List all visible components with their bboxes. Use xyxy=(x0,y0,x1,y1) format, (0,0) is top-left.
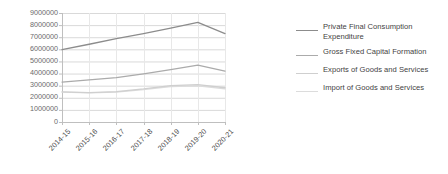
series-line xyxy=(62,65,225,82)
y-axis-ticks xyxy=(59,14,62,123)
legend-item-label: Private Final Consumption Expenditure xyxy=(323,22,413,43)
legend-item[interactable]: Gross Fixed Capital Formation xyxy=(296,47,448,61)
line-chart: 0100000020000003000000400000050000006000… xyxy=(0,0,448,174)
legend-item-label: Import of Goods and Services xyxy=(323,83,424,93)
legend-color-swatch xyxy=(296,69,318,79)
grid-lines xyxy=(62,14,225,123)
legend-item[interactable]: Import of Goods and Services xyxy=(296,83,448,97)
legend-item[interactable]: Private Final Consumption Expenditure xyxy=(296,22,448,43)
legend-color-swatch xyxy=(296,26,318,36)
legend-color-swatch xyxy=(296,87,318,97)
legend-item-label: Gross Fixed Capital Formation xyxy=(323,47,427,57)
series-line xyxy=(62,22,225,49)
legend-item[interactable]: Exports of Goods and Services xyxy=(296,65,448,79)
legend-item-label: Exports of Goods and Services xyxy=(323,65,428,75)
legend-color-swatch xyxy=(296,51,318,61)
chart-legend: Private Final Consumption ExpenditureGro… xyxy=(296,22,448,101)
axis-lines xyxy=(62,13,225,123)
grid-lines-vertical xyxy=(63,13,226,122)
